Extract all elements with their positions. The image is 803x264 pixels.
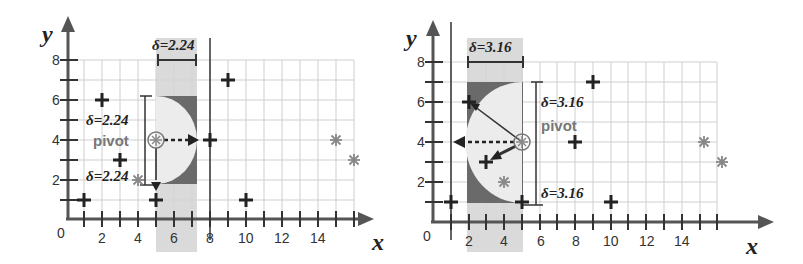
x-tick-label: 12	[274, 230, 290, 246]
y-tick-label: 4	[417, 134, 425, 150]
x-axis-arrow-icon	[758, 215, 774, 229]
delta-side-bottom-label: δ=2.24	[86, 168, 129, 184]
pivot-marker-icon	[514, 134, 530, 150]
origin-label: 0	[423, 228, 431, 244]
y-tick-label: 8	[417, 54, 425, 70]
x-tick-label: 14	[310, 230, 326, 246]
y-tick-label: 8	[52, 52, 60, 68]
x-tick-label: 10	[603, 233, 619, 249]
x-tick-label: 6	[537, 233, 545, 249]
x-tick-label: 4	[134, 230, 142, 246]
x-tick-label: 8	[572, 233, 580, 249]
y-tick-label: 6	[417, 94, 425, 110]
left-panel: 8 6 4 2 0 2 4 6 8 10 12 14 y x δ=2.24 δ=…	[39, 16, 384, 255]
y-axis-arrow-icon	[61, 16, 75, 32]
pivot-label: pivot	[541, 117, 577, 134]
delta-side-bottom-label: δ=3.16	[541, 185, 584, 201]
x-axis-label: x	[371, 229, 384, 255]
x-tick-label: 14	[674, 233, 690, 249]
y-tick-label: 4	[52, 132, 60, 148]
right-panel: 8 6 4 2 0 2 4 6 8 10 12 14 y x δ=3.16 δ=…	[403, 20, 774, 259]
y-tick-label: 2	[417, 174, 425, 190]
x-tick-label: 12	[639, 233, 655, 249]
pivot-label: pivot	[93, 132, 129, 149]
arrow-head-icon	[453, 136, 465, 148]
x-tick-label: 6	[170, 230, 178, 246]
y-axis-arrow-icon	[426, 20, 440, 36]
x-tick-label: 8	[206, 230, 214, 246]
y-axis-label: y	[39, 21, 53, 47]
x-tick-label: 4	[500, 233, 508, 249]
x-axis-label: x	[745, 233, 758, 259]
y-tick-label: 2	[52, 172, 60, 188]
x-tick-label: 2	[98, 230, 106, 246]
delta-top-label: δ=3.16	[469, 39, 512, 55]
x-tick-label: 10	[238, 230, 254, 246]
delta-side-top-label: δ=2.24	[86, 112, 129, 128]
delta-side-top-label: δ=3.16	[541, 94, 584, 110]
origin-label: 0	[57, 225, 65, 241]
y-tick-label: 6	[52, 92, 60, 108]
y-axis-label: y	[403, 25, 417, 51]
x-axis-arrow-icon	[358, 212, 374, 226]
x-tick-label: 2	[465, 233, 473, 249]
delta-top-label: δ=2.24	[152, 37, 195, 53]
pivot-marker-icon	[148, 132, 164, 148]
diagram-canvas: 8 6 4 2 0 2 4 6 8 10 12 14 y x δ=2.24 δ=…	[0, 0, 803, 264]
